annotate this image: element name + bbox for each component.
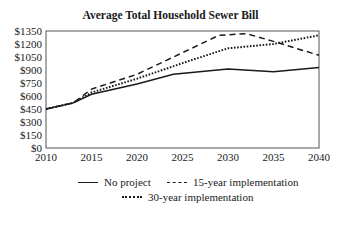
dotted-line-swatch-icon <box>122 196 142 198</box>
legend-item-15-year: 15-year implementation <box>167 176 298 188</box>
series-lines <box>46 34 319 109</box>
x-tick-label: 2010 <box>35 151 58 163</box>
y-tick-label: $600 <box>20 90 43 102</box>
x-tick-label: 2035 <box>263 151 286 163</box>
y-tick-label: $1200 <box>15 38 43 50</box>
x-tick-label: 2025 <box>172 151 195 163</box>
legend-label: 30-year implementation <box>148 191 253 203</box>
x-tick-label: 2040 <box>308 151 331 163</box>
y-axis-ticks: $0$150$300$450$600$750$900$1050$1200$135… <box>15 25 43 154</box>
y-tick-label: $150 <box>20 129 43 141</box>
solid-line-swatch-icon <box>78 182 98 183</box>
y-tick-label: $450 <box>20 103 43 115</box>
y-tick-label: $900 <box>20 64 43 76</box>
y-tick-label: $1350 <box>15 25 43 37</box>
x-axis-ticks: 2010201520202025203020352040 <box>35 151 331 163</box>
y-tick-label: $1050 <box>15 51 43 63</box>
legend-item-no-project: No project <box>78 176 151 188</box>
y-tick-label: $300 <box>20 116 43 128</box>
x-tick-label: 2020 <box>126 151 149 163</box>
series-line-dotted <box>46 35 319 109</box>
series-line-solid <box>46 67 319 109</box>
plot-frame <box>46 31 319 148</box>
x-tick-label: 2030 <box>217 151 240 163</box>
legend-label: 15-year implementation <box>193 176 298 188</box>
legend-item-30-year: 30-year implementation <box>122 191 253 203</box>
legend-label: No project <box>104 176 151 188</box>
x-tick-label: 2015 <box>81 151 104 163</box>
y-tick-label: $750 <box>20 77 43 89</box>
dashed-line-swatch-icon <box>167 182 187 183</box>
